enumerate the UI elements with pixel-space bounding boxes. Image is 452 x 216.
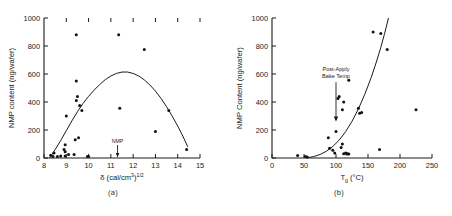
data-point bbox=[340, 146, 343, 149]
chart-a-scatter: 02004006008001000 89101112131415 NMP NMP… bbox=[0, 0, 226, 186]
chart-a-x-axis-sup-half: 1/2 bbox=[137, 172, 144, 178]
data-point bbox=[64, 150, 67, 153]
panel-a: 02004006008001000 89101112131415 NMP NMP… bbox=[0, 0, 226, 216]
panel-b: 02004006008001000 050100150200250 Post-A… bbox=[226, 0, 452, 216]
panel-b-subcaption: (b) bbox=[226, 188, 452, 197]
data-point bbox=[306, 155, 309, 158]
data-point bbox=[333, 152, 336, 155]
chart-b-x-axis-unit: (°C) bbox=[348, 173, 364, 182]
chart-a-nmp-label: NMP bbox=[112, 138, 124, 144]
data-point bbox=[328, 147, 331, 150]
chart-a-nmp-arrow-head bbox=[116, 153, 120, 158]
data-point bbox=[51, 155, 54, 158]
x-tick-label: 0 bbox=[270, 161, 274, 170]
y-tick-label: 200 bbox=[256, 126, 268, 135]
x-tick-label: 15 bbox=[196, 161, 204, 170]
chart-a-fit-curve bbox=[50, 72, 188, 158]
data-point bbox=[378, 148, 381, 151]
data-point bbox=[117, 33, 120, 36]
data-point bbox=[65, 115, 68, 118]
chart-b-annotation-line2: Bake Temp bbox=[322, 73, 350, 79]
x-tick-label: 10 bbox=[84, 161, 92, 170]
data-point bbox=[77, 136, 80, 139]
chart-b-axes bbox=[272, 18, 432, 158]
chart-a-x-axis-open: (cal/cm bbox=[105, 173, 132, 182]
chart-a-axes bbox=[44, 18, 200, 158]
data-point bbox=[75, 33, 78, 36]
y-tick-label: 0 bbox=[36, 154, 40, 163]
x-tick-label: 13 bbox=[151, 161, 159, 170]
data-point bbox=[341, 108, 344, 111]
y-tick-label: 800 bbox=[256, 42, 268, 51]
data-point bbox=[347, 79, 350, 82]
data-point bbox=[75, 99, 78, 102]
x-tick-label: 9 bbox=[64, 161, 68, 170]
data-point bbox=[386, 48, 389, 51]
x-tick-label: 150 bbox=[362, 161, 374, 170]
chart-b-fit-curve bbox=[307, 18, 388, 158]
data-point bbox=[73, 153, 76, 156]
data-point bbox=[347, 153, 350, 156]
chart-b-x-tick-labels: 050100150200250 bbox=[270, 161, 438, 170]
data-point bbox=[360, 111, 363, 114]
y-tick-label: 1000 bbox=[24, 14, 40, 23]
data-point bbox=[379, 32, 382, 35]
data-point bbox=[167, 109, 170, 112]
chart-a-y-ticks bbox=[44, 18, 48, 158]
x-tick-label: 200 bbox=[394, 161, 406, 170]
data-point bbox=[296, 154, 299, 157]
x-tick-label: 14 bbox=[174, 161, 182, 170]
chart-a-x-tick-labels: 89101112131415 bbox=[42, 161, 204, 170]
x-tick-label: 11 bbox=[107, 161, 115, 170]
chart-b-bake-temp-annotation: Post-Apply Bake Temp bbox=[322, 66, 350, 121]
chart-a-x-ticks bbox=[44, 18, 200, 158]
data-point bbox=[80, 109, 83, 112]
data-point bbox=[75, 80, 78, 83]
y-tick-label: 600 bbox=[256, 70, 268, 79]
data-point bbox=[185, 148, 188, 151]
chart-a-x-axis-title: δ (cal/cm3)1/2 bbox=[100, 172, 144, 182]
data-point bbox=[87, 155, 90, 158]
chart-b-scatter: 02004006008001000 050100150200250 Post-A… bbox=[226, 0, 452, 186]
y-tick-label: 600 bbox=[28, 70, 40, 79]
y-tick-label: 800 bbox=[28, 42, 40, 51]
chart-b-x-ticks bbox=[272, 154, 432, 158]
chart-b-y-ticks bbox=[272, 18, 276, 158]
data-point bbox=[64, 154, 67, 157]
data-point bbox=[357, 107, 360, 110]
data-point bbox=[118, 107, 121, 110]
data-point bbox=[143, 48, 146, 51]
chart-a-nmp-annotation: NMP bbox=[112, 138, 124, 158]
chart-b-annotation-line1: Post-Apply bbox=[322, 66, 349, 72]
data-point bbox=[56, 155, 59, 158]
data-point bbox=[327, 136, 330, 139]
y-tick-label: 400 bbox=[256, 98, 268, 107]
y-tick-label: 200 bbox=[28, 126, 40, 135]
data-point bbox=[64, 143, 67, 146]
data-point bbox=[53, 152, 56, 155]
data-point bbox=[415, 108, 418, 111]
data-point bbox=[342, 101, 345, 104]
data-point bbox=[341, 143, 344, 146]
x-tick-label: 12 bbox=[129, 161, 137, 170]
x-tick-label: 250 bbox=[426, 161, 438, 170]
data-point bbox=[372, 31, 375, 34]
chart-a-y-axis-title: NMP content (ng/wafer) bbox=[7, 48, 16, 129]
panel-a-subcaption: (a) bbox=[0, 188, 226, 197]
chart-b-y-tick-labels: 02004006008001000 bbox=[252, 14, 268, 163]
x-tick-label: 100 bbox=[330, 161, 342, 170]
data-point bbox=[338, 95, 341, 98]
data-point bbox=[59, 154, 62, 157]
data-point bbox=[74, 138, 77, 141]
chart-b-x-axis-title: Tg (°C) bbox=[340, 173, 364, 183]
chart-b-y-axis-title: NMP Content (ng/wafer) bbox=[235, 47, 244, 129]
chart-b-data-points bbox=[296, 31, 417, 159]
x-tick-label: 50 bbox=[300, 161, 308, 170]
data-point bbox=[331, 149, 334, 152]
y-tick-label: 400 bbox=[28, 98, 40, 107]
data-point bbox=[67, 153, 70, 156]
data-point bbox=[78, 104, 81, 107]
x-tick-label: 8 bbox=[42, 161, 46, 170]
y-tick-label: 1000 bbox=[252, 14, 268, 23]
figure-two-panel-scatter-plots: 02004006008001000 89101112131415 NMP NMP… bbox=[0, 0, 452, 216]
